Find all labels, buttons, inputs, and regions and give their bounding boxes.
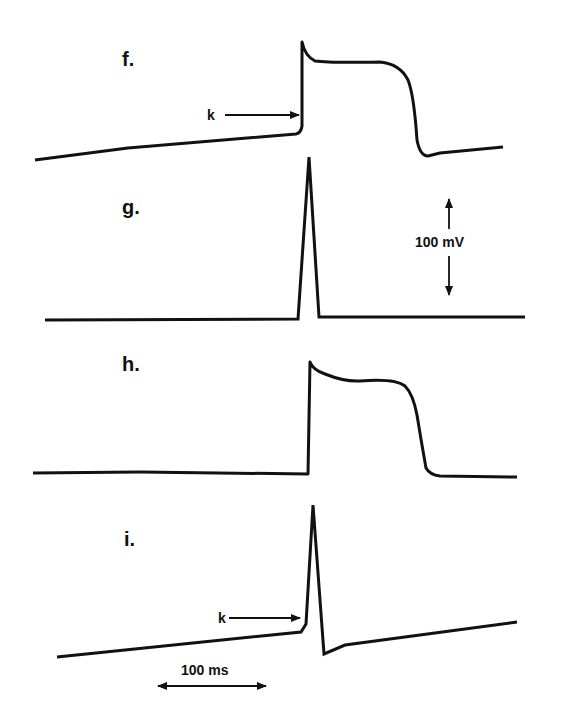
trace-h bbox=[33, 362, 517, 477]
panel-i: i. k 100 ms bbox=[57, 505, 517, 686]
trace-f bbox=[35, 42, 503, 160]
marker-k-f: k bbox=[207, 107, 215, 123]
marker-k-i: k bbox=[218, 610, 226, 626]
panel-g-label: g. bbox=[122, 196, 140, 218]
time-scale-label: 100 ms bbox=[181, 662, 229, 678]
action-potential-diagram: f. k g. 100 mV h. i. k 100 ms bbox=[0, 0, 563, 717]
panel-h-label: h. bbox=[122, 353, 140, 375]
panel-i-label: i. bbox=[124, 528, 135, 550]
panel-h: h. bbox=[33, 353, 517, 477]
panel-f: f. k bbox=[35, 42, 503, 160]
voltage-scale-label: 100 mV bbox=[415, 234, 465, 250]
panel-f-label: f. bbox=[122, 48, 134, 70]
panel-g: g. 100 mV bbox=[45, 157, 525, 320]
